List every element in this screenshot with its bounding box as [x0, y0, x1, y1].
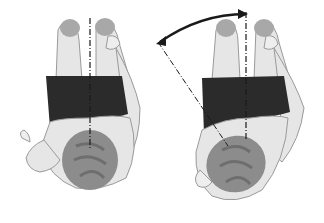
- right-shoe: [95, 18, 115, 36]
- figure-rotated-panel: [150, 0, 324, 223]
- left-shoe: [60, 19, 80, 37]
- arrowhead-left-icon: [156, 36, 166, 46]
- figure-neutral-panel: [0, 0, 162, 223]
- left-shoe: [216, 19, 236, 37]
- left-hand: [20, 130, 30, 142]
- right-shoe: [254, 19, 274, 37]
- figure-rotated-illustration: [150, 0, 324, 223]
- figure-neutral-illustration: [0, 0, 162, 223]
